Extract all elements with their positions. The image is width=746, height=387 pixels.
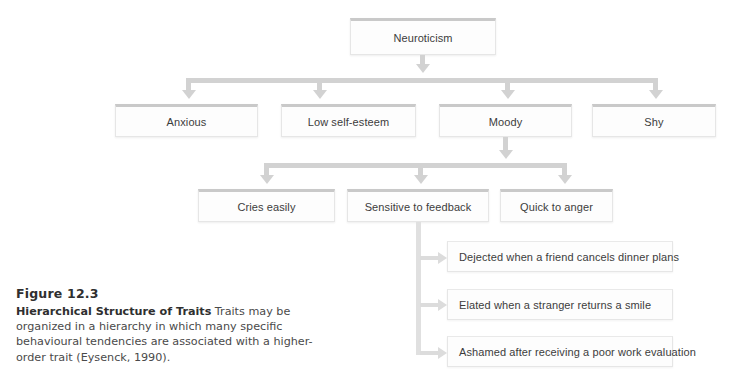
node-sensitive-to-feedback[interactable]: Sensitive to feedback xyxy=(347,189,489,222)
node-shy-label: Shy xyxy=(644,116,663,128)
arrow-to-moody xyxy=(501,90,515,99)
arrow-to-anxious xyxy=(182,90,196,99)
arrow-to-cries-easily xyxy=(260,175,274,184)
node-ashamed-label: Ashamed after receiving a poor work eval… xyxy=(459,346,696,358)
node-cries-easily[interactable]: Cries easily xyxy=(198,189,335,222)
connector-stub-ashamed xyxy=(420,351,439,355)
arrow-to-low-self-esteem xyxy=(313,90,327,99)
connector-sensitive-spine xyxy=(416,222,421,355)
node-quick-to-anger-label: Quick to anger xyxy=(520,201,593,213)
node-dejected-when-a-friend-cancels-dinner-plans[interactable]: Dejected when a friend cancels dinner pl… xyxy=(447,241,673,272)
arrow-to-quick-to-anger xyxy=(558,175,572,184)
node-neuroticism[interactable]: Neuroticism xyxy=(350,18,496,55)
connector-bus-level3 xyxy=(264,163,567,168)
node-anxious[interactable]: Anxious xyxy=(115,104,258,137)
arrow-to-shy xyxy=(649,90,663,99)
node-low-self-esteem-label: Low self-esteem xyxy=(308,116,390,128)
node-elated-when-a-stranger-returns-a-smile[interactable]: Elated when a stranger returns a smile xyxy=(447,289,673,320)
figure-hierarchical-structure-of-traits: Neuroticism Anxious Low self-esteem Mood… xyxy=(0,0,746,387)
connector-stub-elated xyxy=(420,303,439,307)
connector-stub-dejected xyxy=(420,256,439,260)
figure-caption-body: Hierarchical Structure of Traits Traits … xyxy=(16,304,316,365)
node-moody[interactable]: Moody xyxy=(439,104,572,137)
arrow-to-sensitive-to-feedback xyxy=(414,175,428,184)
arrow-to-elated xyxy=(438,299,447,311)
connector-bus-level2 xyxy=(186,78,658,83)
arrow-moody-to-bus xyxy=(499,150,513,159)
node-ashamed-after-receiving-a-poor-work-evaluation[interactable]: Ashamed after receiving a poor work eval… xyxy=(447,336,673,367)
node-quick-to-anger[interactable]: Quick to anger xyxy=(500,189,613,222)
arrow-neuroticism-to-bus xyxy=(416,64,430,73)
node-cries-easily-label: Cries easily xyxy=(237,201,295,213)
figure-number: Figure 12.3 xyxy=(16,286,316,301)
node-dejected-label: Dejected when a friend cancels dinner pl… xyxy=(459,251,679,263)
figure-caption-title: Hierarchical Structure of Traits xyxy=(16,305,211,318)
node-low-self-esteem[interactable]: Low self-esteem xyxy=(281,104,416,137)
node-sensitive-to-feedback-label: Sensitive to feedback xyxy=(365,201,472,213)
arrow-to-ashamed xyxy=(438,347,447,359)
arrow-to-dejected xyxy=(438,252,447,264)
node-elated-label: Elated when a stranger returns a smile xyxy=(459,299,651,311)
node-anxious-label: Anxious xyxy=(167,116,207,128)
node-neuroticism-label: Neuroticism xyxy=(393,32,452,44)
node-shy[interactable]: Shy xyxy=(592,104,716,137)
node-moody-label: Moody xyxy=(489,116,523,128)
figure-caption: Figure 12.3 Hierarchical Structure of Tr… xyxy=(16,286,316,365)
